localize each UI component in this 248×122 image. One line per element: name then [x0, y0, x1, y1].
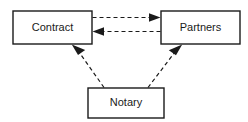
node-partners[interactable]: Partners: [161, 11, 240, 44]
edge-partners-to-contract: [93, 27, 161, 36]
edge-partners-to-contract-arrowhead: [93, 27, 105, 36]
node-contract-label: Contract: [32, 21, 74, 33]
node-notary-label: Notary: [110, 96, 143, 108]
edge-notary-to-partners-arrowhead: [169, 45, 182, 56]
diagram-canvas: Contract Partners Notary: [0, 0, 248, 122]
node-partners-label: Partners: [180, 21, 222, 33]
edge-notary-to-contract: [72, 45, 104, 88]
edge-notary-to-contract-arrowhead: [72, 45, 85, 56]
edge-notary-to-partners: [148, 45, 182, 88]
edge-contract-to-partners-arrowhead: [149, 13, 161, 22]
edge-contract-to-partners: [93, 13, 161, 22]
edge-notary-to-partners-line: [148, 52, 175, 88]
node-contract[interactable]: Contract: [13, 11, 92, 44]
edge-notary-to-contract-line: [79, 52, 104, 88]
diagram-svg: Contract Partners Notary: [0, 0, 248, 122]
node-notary[interactable]: Notary: [88, 88, 164, 118]
